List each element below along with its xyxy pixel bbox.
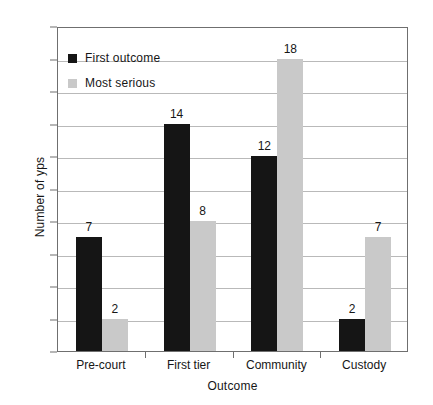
bar-value-label: 2 [112,302,119,316]
gridline [58,256,407,257]
gridline [58,191,407,192]
legend-label: First outcome [85,51,160,65]
chart-legend: First outcomeMost serious [68,48,160,98]
y-axis-tick-mark [50,287,57,288]
bar-value-label: 7 [375,220,382,234]
bar-value-label: 18 [284,42,297,56]
y-axis-tick-mark [50,319,57,320]
legend-label: Most serious [85,76,155,90]
y-axis-tick-mark [50,189,57,190]
x-axis-title: Outcome [57,379,408,393]
bar-value-label: 14 [170,107,183,121]
x-axis-group-separator-tick [233,352,234,358]
x-axis-category-label: First tier [167,358,210,372]
bar-community-first-outcome [251,156,277,351]
y-axis-tick-mark [50,92,57,93]
x-axis-group-separator-tick [320,352,321,358]
legend-item-first-outcome: First outcome [68,48,160,68]
bar-first-tier-most-serious [190,221,216,351]
bar-custody-first-outcome [339,319,365,352]
x-axis-group-separator-tick [145,352,146,358]
y-axis-tick-mark [50,222,57,223]
bar-chart: Number of yps 02468101214161820 72148121… [0,0,433,405]
y-axis-tick-mark [50,352,57,353]
bar-community-most-serious [277,59,303,352]
gridline [58,223,407,224]
bar-value-label: 2 [349,302,356,316]
bar-value-label: 12 [258,139,271,153]
gridline [58,126,407,127]
y-axis-tick-mark [50,124,57,125]
legend-item-most-serious: Most serious [68,73,160,93]
legend-swatch-icon [68,54,77,63]
bar-pre-court-first-outcome [76,237,102,351]
gridline [58,158,407,159]
y-axis-tick-mark [50,254,57,255]
bar-first-tier-first-outcome [164,124,190,352]
bar-value-label: 7 [86,220,93,234]
bar-pre-court-most-serious [102,319,128,352]
y-axis-tick-mark [50,27,57,28]
bar-custody-most-serious [365,237,391,351]
y-axis-tick-mark [50,59,57,60]
legend-swatch-icon [68,79,77,88]
y-axis-tick-mark [50,157,57,158]
x-axis-category-label: Community [246,358,307,372]
x-axis-category-label: Pre-court [76,358,125,372]
gridline [58,288,407,289]
x-axis-category-label: Custody [342,358,386,372]
bar-value-label: 8 [199,204,206,218]
y-axis-ticks: 02468101214161820 [0,0,57,405]
